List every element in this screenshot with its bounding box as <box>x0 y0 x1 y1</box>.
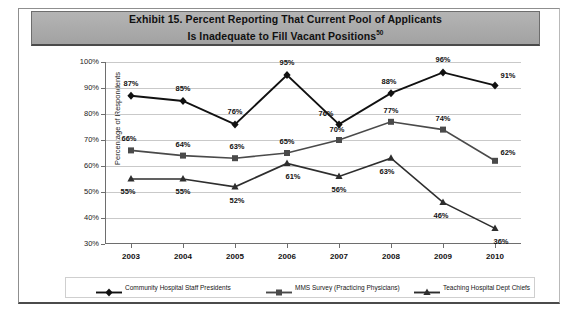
data-label: 63% <box>229 142 244 151</box>
data-label: 85% <box>175 84 190 93</box>
legend-marker-square-icon <box>266 283 292 292</box>
data-label: 76% <box>227 107 242 116</box>
legend-marker-triangle-icon <box>414 283 440 292</box>
exhibit-title-line-2: Is Inadequate to Fill Vacant Positions50 <box>187 26 383 43</box>
triangle-marker <box>387 154 394 161</box>
exhibit-page: Exhibit 15. Percent Reporting That Curre… <box>0 0 571 328</box>
data-label: 62% <box>500 147 515 156</box>
diamond-marker <box>127 92 134 100</box>
legend-item-1[interactable]: Community Hospital Staff Presidents <box>96 283 231 292</box>
data-label: 96% <box>435 55 450 64</box>
x-axis-tick <box>235 244 236 248</box>
y-axis-tick-label: 80% <box>73 110 99 118</box>
data-label: 66% <box>121 134 136 143</box>
data-label: 77% <box>383 105 398 114</box>
data-label: 65% <box>279 137 294 146</box>
data-label: 76% <box>318 109 333 118</box>
data-label: 46% <box>433 211 448 220</box>
diamond-marker <box>105 289 112 297</box>
data-label: 87% <box>123 78 138 87</box>
y-axis-tick-label: 100% <box>73 58 99 66</box>
x-axis-tick-label: 2010 <box>475 252 515 261</box>
data-label: 63% <box>379 167 394 176</box>
y-axis-tick-label: 60% <box>73 162 99 170</box>
y-axis-tick-label: 70% <box>73 136 99 144</box>
data-label: 88% <box>381 77 396 86</box>
legend-item-3[interactable]: Teaching Hospital Dept Chiefs <box>414 283 530 292</box>
exhibit-title-line-1: Exhibit 15. Percent Reporting That Curre… <box>129 13 442 26</box>
square-marker <box>388 119 394 125</box>
x-axis-tick <box>131 244 132 248</box>
square-marker <box>492 158 498 164</box>
diamond-marker <box>387 89 394 97</box>
legend-label: Community Hospital Staff Presidents <box>125 284 231 291</box>
data-label: 95% <box>279 58 294 67</box>
square-marker <box>128 147 134 153</box>
data-label: 55% <box>120 187 135 196</box>
x-axis-tick <box>443 244 444 248</box>
square-marker <box>276 290 282 296</box>
diamond-marker <box>491 81 498 89</box>
x-axis-tick <box>183 244 184 248</box>
data-label: 36% <box>493 237 508 246</box>
chart-plot-area: Percentage of Respondents 30%40%50%60%70… <box>105 62 521 244</box>
legend-label: MMS Survey (Practicing Physicians) <box>295 284 400 291</box>
square-marker <box>336 137 342 143</box>
data-label: 56% <box>331 185 346 194</box>
legend-label: Teaching Hospital Dept Chiefs <box>443 284 530 291</box>
x-axis-tick-label: 2007 <box>319 252 359 261</box>
y-axis-tick-label: 90% <box>73 84 99 92</box>
square-marker <box>284 150 290 156</box>
x-axis-tick-label: 2005 <box>215 252 255 261</box>
diamond-marker <box>179 97 186 105</box>
x-axis-tick <box>391 244 392 248</box>
exhibit-title-footnote-marker: 50 <box>376 29 383 36</box>
square-marker <box>232 155 238 161</box>
legend-item-2[interactable]: MMS Survey (Practicing Physicians) <box>266 283 400 292</box>
y-axis-tick <box>101 244 105 245</box>
diamond-marker <box>439 68 446 76</box>
x-axis-tick-label: 2004 <box>163 252 203 261</box>
x-axis-tick-label: 2009 <box>423 252 463 261</box>
square-marker <box>180 153 186 159</box>
chart-legend: Community Hospital Staff PresidentsMMS S… <box>65 277 535 298</box>
x-axis-tick-label: 2008 <box>371 252 411 261</box>
square-marker <box>440 127 446 133</box>
x-axis-tick <box>339 244 340 248</box>
exhibit-title-line-2-text: Is Inadequate to Fill Vacant Positions <box>187 30 376 42</box>
data-label: 61% <box>285 172 300 181</box>
y-axis-tick-label: 30% <box>73 240 99 248</box>
triangle-marker <box>283 159 290 166</box>
y-axis-tick-label: 50% <box>73 188 99 196</box>
data-label: 70% <box>329 125 344 134</box>
exhibit-title-bar: Exhibit 15. Percent Reporting That Curre… <box>31 11 540 46</box>
y-axis-tick-label: 40% <box>73 214 99 222</box>
legend-items: Community Hospital Staff PresidentsMMS S… <box>66 278 534 297</box>
legend-marker-diamond-icon <box>96 283 122 292</box>
x-axis-tick <box>287 244 288 248</box>
x-axis-tick-label: 2003 <box>111 252 151 261</box>
data-label: 52% <box>229 195 244 204</box>
x-axis-tick-label: 2006 <box>267 252 307 261</box>
data-label: 64% <box>175 139 190 148</box>
data-label: 91% <box>500 71 515 80</box>
data-label: 55% <box>175 187 190 196</box>
series-lines <box>105 62 521 244</box>
data-label: 74% <box>435 113 450 122</box>
